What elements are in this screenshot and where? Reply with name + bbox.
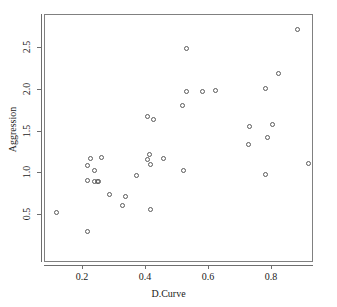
data-point (184, 46, 189, 51)
scatter-plot-figure: 0.20.40.60.8 0.51.01.52.02.5 D.Curve Agg… (0, 0, 337, 307)
data-point (184, 89, 189, 94)
x-axis-tick (145, 265, 146, 269)
x-axis-tick (82, 265, 83, 269)
y-axis-tick-label: 2.0 (22, 83, 32, 96)
data-point (85, 229, 90, 234)
x-axis-tick-label: 0.8 (265, 272, 278, 282)
data-point (263, 86, 268, 91)
y-axis-tick-label: 1.0 (22, 166, 32, 179)
x-axis-tick-label: 0.6 (202, 272, 215, 282)
y-axis-title: Aggression (7, 90, 18, 170)
y-axis-tick (37, 89, 41, 90)
y-axis-tick (37, 131, 41, 132)
y-axis-tick-label: 1.5 (22, 124, 32, 137)
data-point (181, 168, 186, 173)
data-point (147, 152, 152, 157)
data-point (148, 207, 153, 212)
x-axis-tick (208, 265, 209, 269)
data-point (276, 71, 281, 76)
y-axis-line (41, 14, 42, 262)
data-points-layer (45, 15, 312, 261)
data-point (120, 203, 125, 208)
data-point (161, 156, 166, 161)
data-point (85, 163, 90, 168)
data-point (145, 114, 150, 119)
x-axis-tick (271, 265, 272, 269)
y-axis-tick (37, 172, 41, 173)
y-axis-tick-label: 2.5 (22, 41, 32, 54)
data-point (123, 194, 128, 199)
data-point (247, 124, 252, 129)
data-point (107, 192, 112, 197)
data-point (270, 122, 275, 127)
data-point (148, 162, 153, 167)
data-point (134, 173, 139, 178)
data-point (306, 161, 311, 166)
y-axis-tick (37, 47, 41, 48)
data-point (263, 172, 268, 177)
data-point (88, 156, 93, 161)
plot-frame (44, 14, 313, 262)
y-axis-tick (37, 214, 41, 215)
data-point (200, 89, 205, 94)
data-point (96, 179, 101, 184)
data-point (265, 135, 270, 140)
data-point (213, 88, 218, 93)
data-point (145, 157, 150, 162)
data-point (295, 27, 300, 32)
y-axis-tick-label: 0.5 (22, 208, 32, 221)
data-point (85, 178, 90, 183)
x-axis-tick-label: 0.4 (139, 272, 152, 282)
data-point (92, 168, 97, 173)
x-axis-tick-label: 0.2 (76, 272, 89, 282)
x-axis-line (44, 265, 313, 266)
data-point (246, 142, 251, 147)
x-axis-title: D.Curve (0, 288, 337, 299)
data-point (180, 103, 185, 108)
data-point (54, 210, 59, 215)
data-point (151, 117, 156, 122)
data-point (99, 155, 104, 160)
